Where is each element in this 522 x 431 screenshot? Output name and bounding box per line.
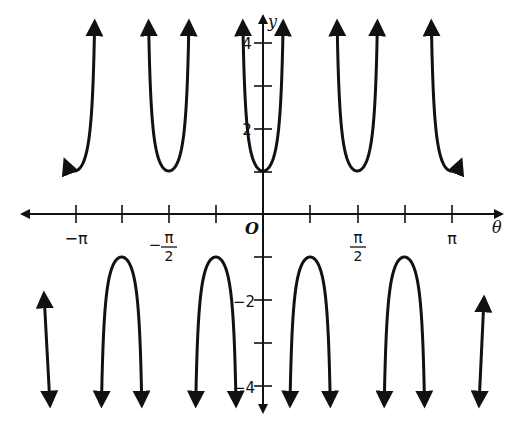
upper-branch bbox=[149, 22, 189, 171]
lower-branch bbox=[384, 257, 424, 405]
upper-branch bbox=[337, 22, 377, 171]
edge-branch-fragment bbox=[479, 298, 484, 405]
lower-branch bbox=[196, 257, 236, 405]
upper-branch bbox=[431, 22, 461, 171]
x-axis-label: θ bbox=[492, 218, 502, 237]
lower-branch bbox=[290, 257, 330, 405]
origin-label: O bbox=[245, 219, 259, 238]
fraction-numerator: π bbox=[164, 229, 173, 247]
y-axis-label: y bbox=[267, 12, 278, 31]
secant-graph: y θ O −π − π 2 π 2 π 4 2 −2 −4 bbox=[0, 0, 522, 431]
minus-sign: − bbox=[149, 236, 162, 254]
y-tick-label-neg-2: −2 bbox=[233, 293, 255, 311]
fraction-denominator: 2 bbox=[354, 248, 363, 264]
fraction-numerator: π bbox=[353, 229, 362, 247]
fraction-denominator: 2 bbox=[165, 248, 174, 264]
x-tick-label-pi: π bbox=[447, 229, 457, 248]
lower-branch bbox=[101, 257, 141, 405]
upper-branch bbox=[65, 22, 95, 171]
x-tick-label-neg-pi: −π bbox=[64, 229, 87, 248]
x-tick-label-half-pi: π 2 bbox=[350, 229, 366, 264]
x-tick-label-neg-half-pi: − π 2 bbox=[149, 229, 177, 264]
edge-branch-fragment bbox=[44, 294, 50, 405]
